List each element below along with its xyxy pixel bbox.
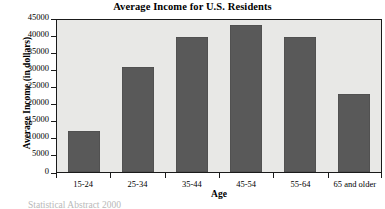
y-axis-tick-label: 25000 [28, 81, 49, 90]
source-note: Statistical Abstract 2000 [28, 200, 121, 209]
y-axis-tick-label: 45000 [28, 13, 49, 22]
plot-area [56, 19, 382, 173]
bar[interactable] [176, 37, 208, 172]
bar-slot [219, 20, 273, 172]
bar[interactable] [68, 131, 100, 172]
bar[interactable] [338, 94, 370, 172]
bar-slot [327, 20, 381, 172]
x-axis-title: Age [56, 189, 382, 200]
bar-slot [273, 20, 327, 172]
bar-chart-figure: Average Income for U.S. Residents Averag… [0, 0, 385, 209]
y-axis-tick-label: 20000 [28, 98, 49, 107]
bar[interactable] [230, 25, 262, 172]
bar[interactable] [284, 37, 316, 172]
chart-title: Average Income for U.S. Residents [0, 1, 385, 13]
y-axis-tick-label: 10000 [28, 132, 49, 141]
y-axis-tick-label: 40000 [28, 30, 49, 39]
y-axis-tick-label: 35000 [28, 47, 49, 56]
y-axis-tick-label: 30000 [28, 64, 49, 73]
bar[interactable] [122, 67, 154, 172]
bar-slot [57, 20, 111, 172]
y-axis-tick-label: 15000 [28, 115, 49, 124]
y-axis-tick-label: 5000 [32, 149, 49, 158]
y-axis-tick-label: 0 [45, 167, 49, 176]
bar-slot [111, 20, 165, 172]
bars-layer [57, 20, 381, 172]
y-axis-tick-group: 0500010000150002000025000300003500040000… [0, 19, 56, 173]
bar-slot [165, 20, 219, 172]
